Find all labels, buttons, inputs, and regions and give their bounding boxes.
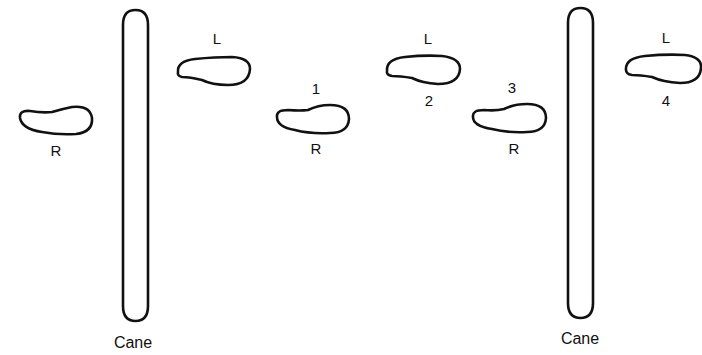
footprint-right-step-1 (277, 105, 349, 133)
footprint-left-step-4 (626, 55, 701, 83)
label-r-step-3: R (509, 141, 520, 156)
label-cane-left: Cane (114, 335, 152, 351)
label-step-1: 1 (312, 81, 320, 96)
label-step-3: 3 (508, 80, 516, 95)
diagram-canvas (0, 0, 702, 355)
gait-diagram: R L 1 R L 2 3 R L 4 Cane Cane (0, 0, 702, 355)
label-step-4: 4 (662, 93, 670, 108)
footprint-left-initial (178, 57, 250, 85)
footprint-right-step-3 (473, 104, 546, 132)
cane-right (568, 8, 593, 318)
cane-left (123, 10, 148, 321)
label-r-step-1: R (311, 141, 322, 156)
label-l-step-2: L (424, 31, 432, 46)
label-l-step-4: L (662, 30, 670, 45)
label-l-initial: L (213, 31, 221, 46)
label-cane-right: Cane (561, 331, 599, 347)
label-step-2: 2 (425, 93, 433, 108)
footprint-right-initial (20, 107, 92, 135)
footprint-left-step-2 (387, 56, 460, 84)
label-r-initial: R (51, 143, 62, 158)
